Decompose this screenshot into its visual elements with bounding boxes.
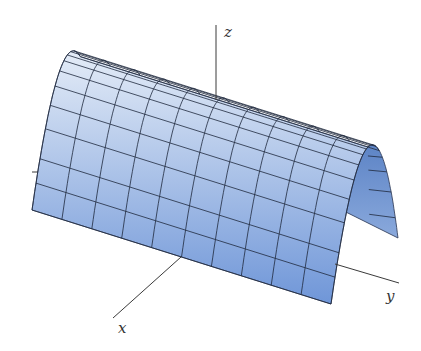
surface-figure: z x y [0,0,421,351]
y-axis-label: y [385,287,395,305]
z-axis-label: z [223,23,232,41]
surface-plot: z x y [0,0,421,351]
surface-front-face [32,51,379,304]
x-axis [113,257,181,318]
x-axis-label: x [118,319,127,337]
y-axis [335,264,399,283]
